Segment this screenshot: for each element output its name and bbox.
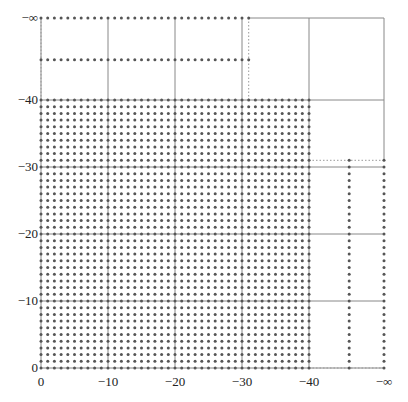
lattice-point — [140, 139, 143, 142]
lattice-point — [254, 212, 257, 215]
lattice-point — [140, 266, 143, 269]
lattice-point — [80, 186, 83, 189]
lattice-point — [348, 199, 351, 202]
lattice-point — [147, 326, 150, 329]
lattice-point — [66, 313, 69, 316]
lattice-point — [60, 179, 63, 182]
lattice-point — [40, 212, 43, 215]
lattice-point — [234, 340, 237, 343]
lattice-point — [267, 326, 270, 329]
lattice-point — [46, 219, 49, 222]
lattice-point — [53, 360, 56, 363]
lattice-point — [60, 17, 63, 20]
lattice-point — [207, 199, 210, 202]
lattice-point — [100, 199, 103, 202]
lattice-point — [348, 246, 351, 249]
lattice-point — [254, 266, 257, 269]
lattice-point — [383, 346, 386, 349]
lattice-point — [60, 132, 63, 135]
lattice-point — [383, 253, 386, 256]
lattice-point — [227, 212, 230, 215]
lattice-point — [107, 259, 110, 262]
lattice-point — [287, 159, 290, 162]
lattice-point — [220, 320, 223, 323]
lattice-point — [214, 306, 217, 309]
lattice-point — [100, 340, 103, 343]
lattice-point — [294, 179, 297, 182]
lattice-point — [267, 266, 270, 269]
lattice-point — [174, 105, 177, 108]
lattice-point — [160, 152, 163, 155]
lattice-point — [348, 226, 351, 229]
lattice-point — [167, 367, 170, 370]
lattice-point — [127, 353, 130, 356]
lattice-point — [153, 286, 156, 289]
lattice-point — [294, 99, 297, 102]
lattice-point — [100, 139, 103, 142]
lattice-point — [80, 99, 83, 102]
lattice-point — [53, 152, 56, 155]
lattice-point — [140, 353, 143, 356]
lattice-point — [294, 112, 297, 115]
lattice-point — [234, 17, 237, 20]
lattice-point — [207, 219, 210, 222]
lattice-point — [227, 306, 230, 309]
lattice-point — [147, 186, 150, 189]
lattice-point — [287, 112, 290, 115]
lattice-point — [227, 313, 230, 316]
lattice-point — [200, 279, 203, 282]
lattice-point — [308, 266, 311, 269]
lattice-point — [220, 340, 223, 343]
lattice-point — [107, 253, 110, 256]
lattice-point — [40, 179, 43, 182]
lattice-point — [66, 300, 69, 303]
lattice-point — [40, 239, 43, 242]
lattice-point — [287, 172, 290, 175]
lattice-point — [241, 340, 244, 343]
lattice-point — [127, 286, 130, 289]
lattice-point — [147, 320, 150, 323]
lattice-point — [127, 346, 130, 349]
lattice-point — [383, 179, 386, 182]
lattice-point — [46, 99, 49, 102]
lattice-point — [107, 119, 110, 122]
lattice-point — [227, 293, 230, 296]
lattice-point — [254, 152, 257, 155]
lattice-point — [140, 58, 143, 61]
lattice-point — [73, 132, 76, 135]
lattice-point — [73, 239, 76, 242]
lattice-point — [241, 346, 244, 349]
lattice-point — [93, 233, 96, 236]
lattice-point — [308, 152, 311, 155]
lattice-point — [200, 259, 203, 262]
lattice-point — [301, 353, 304, 356]
lattice-point — [301, 266, 304, 269]
lattice-point — [308, 125, 311, 128]
lattice-point — [281, 300, 284, 303]
lattice-point — [187, 145, 190, 148]
lattice-point — [127, 239, 130, 242]
lattice-point — [66, 360, 69, 363]
lattice-point — [227, 340, 230, 343]
lattice-point — [200, 212, 203, 215]
lattice-point — [46, 172, 49, 175]
lattice-point — [53, 340, 56, 343]
lattice-point — [100, 99, 103, 102]
lattice-point — [153, 212, 156, 215]
lattice-point — [267, 340, 270, 343]
lattice-point — [187, 179, 190, 182]
lattice-point — [281, 306, 284, 309]
lattice-point — [53, 346, 56, 349]
lattice-point — [294, 346, 297, 349]
lattice-point — [287, 300, 290, 303]
lattice-point — [73, 320, 76, 323]
lattice-point — [147, 259, 150, 262]
lattice-point — [301, 99, 304, 102]
lattice-point — [301, 112, 304, 115]
lattice-point — [133, 340, 136, 343]
lattice-point — [40, 340, 43, 343]
x-tick-label: −30 — [232, 374, 252, 389]
lattice-point — [66, 273, 69, 276]
lattice-point — [140, 333, 143, 336]
lattice-point — [167, 233, 170, 236]
